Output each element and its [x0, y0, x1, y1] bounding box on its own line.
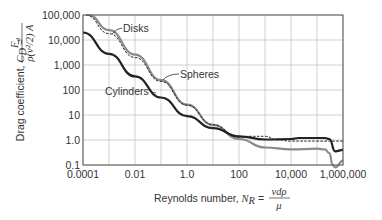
svg-text:Reynolds number, NR =: Reynolds number, NR = — [154, 192, 264, 206]
y-tick-label: 1.0 — [65, 134, 80, 146]
annotation-spheres: Spheres — [163, 68, 219, 80]
x-tick-label: 0.01 — [125, 168, 146, 180]
x-tick-label: 1.0 — [180, 168, 195, 180]
y-tick-label: 1,000 — [54, 59, 80, 71]
svg-text:vdρ: vdρ — [272, 186, 287, 197]
y-tick-label: 10,000 — [48, 34, 80, 46]
y-tick-label: 10 — [68, 109, 80, 121]
svg-text:Disks: Disks — [123, 22, 149, 34]
svg-text:μ: μ — [275, 200, 281, 211]
drag-coefficient-chart: 0.00010.011.010010,0001,000,000 0.11.010… — [0, 0, 382, 220]
y-tick-label: 0.1 — [65, 159, 80, 171]
svg-text:Spheres: Spheres — [180, 68, 219, 80]
svg-text:ρ(v²/2) A: ρ(v²/2) A — [24, 24, 36, 63]
x-axis-label: Reynolds number, NR = vdρ μ — [154, 186, 290, 211]
x-tick-labels: 0.00010.011.010010,0001,000,000 — [67, 168, 367, 180]
y-tick-label: 100 — [62, 84, 80, 96]
svg-text:Cylinders: Cylinders — [105, 85, 149, 97]
x-tick-label: 1,000,000 — [320, 168, 367, 180]
y-tick-label: 100,000 — [42, 9, 80, 21]
x-tick-label: 10,000 — [275, 168, 307, 180]
annotation-disks: Disks — [112, 22, 149, 34]
x-tick-label: 100 — [230, 168, 248, 180]
y-tick-labels: 0.11.0101001,00010,000100,000 — [42, 9, 80, 171]
annotation-cylinders: Cylinders — [105, 85, 156, 97]
